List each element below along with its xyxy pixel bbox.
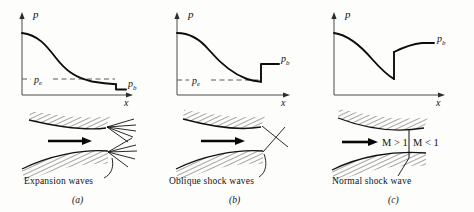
y-axis-label-b: p <box>187 8 194 20</box>
y-axis-label-c: p <box>344 8 351 20</box>
caption-a: Expansion waves <box>24 176 93 186</box>
caption-b: Oblique shock waves <box>169 176 254 186</box>
pressure-plot-b: p x pe pb <box>174 8 290 108</box>
svg-text:pb: pb <box>280 53 290 67</box>
panel-b-graphic: p x pe pb <box>155 0 315 212</box>
y-axis-label-a: p <box>32 8 39 20</box>
panel-letter-b: (b) <box>229 195 240 206</box>
svg-text:pe: pe <box>33 74 42 88</box>
pressure-exit-step-a <box>116 84 126 89</box>
pressure-recovery-c <box>394 43 434 52</box>
pressure-plot-c: p x pb <box>331 8 446 108</box>
pe-label-a: pe <box>33 74 42 88</box>
pe-label-b: pe <box>191 75 200 89</box>
x-axis-label-b: x <box>280 97 286 108</box>
panel-b: p x pe pb <box>155 0 313 212</box>
flow-arrow-head-c <box>368 138 378 146</box>
caption-c: Normal shock wave <box>332 176 411 186</box>
y-axis-arrowhead-a <box>19 12 24 19</box>
panel-c-graphic: p x pb M > 1 M < 1 <box>312 0 474 212</box>
nozzle-flow-figure: p x pe pb <box>0 0 474 212</box>
y-axis-arrowhead-b <box>174 12 179 19</box>
nozzle-sketch-c: M > 1 M < 1 <box>332 109 439 183</box>
pb-label-a: pb <box>127 78 137 92</box>
upper-wall-hatch-b <box>183 110 265 128</box>
pressure-exit-step-b <box>261 64 279 82</box>
oblique-shock-upper-b <box>262 126 288 147</box>
pressure-curve-b <box>177 33 261 82</box>
svg-text:pb: pb <box>436 33 446 47</box>
svg-text:pe: pe <box>191 75 200 89</box>
upper-wall-hatch-c <box>338 109 428 130</box>
pressure-plot-a: p x pe pb <box>19 8 137 108</box>
panel-letter-c: (c) <box>388 195 399 206</box>
flow-arrow-head-a <box>82 137 92 145</box>
pressure-curve-c <box>334 33 394 79</box>
y-axis-arrowhead-c <box>331 12 336 19</box>
panel-a-graphic: p x pe pb <box>0 0 158 212</box>
mach-supersonic-label-c: M > 1 <box>382 137 408 148</box>
oblique-shock-lower-b <box>263 127 285 152</box>
x-axis-label-c: x <box>435 97 441 108</box>
pb-label-c: pb <box>436 33 446 47</box>
nozzle-sketch-b <box>176 110 288 182</box>
upper-wall-hatch-a <box>29 111 110 129</box>
panel-c: p x pb M > 1 M < 1 <box>312 0 470 212</box>
panel-a: p x pe pb <box>0 0 158 212</box>
pb-label-b: pb <box>280 53 290 67</box>
flow-arrow-head-b <box>235 137 245 145</box>
panel-letter-a: (a) <box>72 195 83 206</box>
nozzle-sketch-a <box>22 111 137 182</box>
svg-text:pb: pb <box>127 78 137 92</box>
x-axis-label-a: x <box>123 97 129 108</box>
mach-subsonic-label-c: M < 1 <box>413 137 439 148</box>
